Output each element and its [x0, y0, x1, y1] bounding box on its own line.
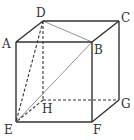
edge-FG	[92, 100, 119, 122]
edge-EB	[16, 42, 92, 122]
vertex-label-h: H	[42, 102, 52, 116]
cube-figure: ABCDEFGH	[0, 0, 134, 140]
vertex-label-d: D	[36, 6, 46, 20]
vertex-label-c: C	[121, 11, 130, 25]
edge-BC	[92, 21, 119, 42]
vertex-label-e: E	[4, 123, 13, 137]
vertex-label-a: A	[1, 37, 11, 51]
edge-DE	[16, 21, 43, 122]
vertex-label-g: G	[121, 97, 131, 111]
vertex-label-b: B	[94, 43, 103, 57]
edge-HE	[16, 100, 43, 122]
edge-DB	[43, 21, 92, 42]
cube-diagram: ABCDEFGH	[0, 0, 134, 140]
edge-DA	[16, 21, 43, 42]
vertex-label-f: F	[93, 123, 101, 137]
